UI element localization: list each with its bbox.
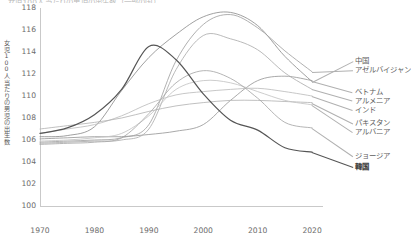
chart-legend: 中国アゼルバイジャンベトナムアルメニアインドパキスタンアルバニアジョージア韓国	[345, 0, 407, 248]
legend-item-1: アゼルバイジャン	[355, 66, 411, 74]
legend-item-6: アルバニア	[355, 128, 390, 136]
series-line	[40, 12, 312, 137]
series-line	[40, 76, 312, 139]
legend-item-7: ジョージア	[355, 152, 390, 160]
legend-item-8: 韓国	[355, 163, 369, 171]
legend-item-4: インド	[355, 106, 376, 114]
series-line	[40, 100, 312, 129]
